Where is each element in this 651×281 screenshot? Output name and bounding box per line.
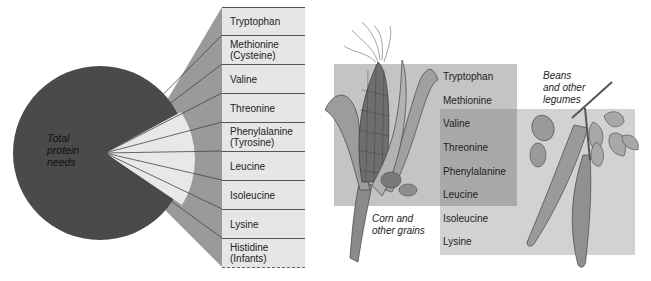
list-item: Leucine bbox=[443, 183, 506, 207]
table-row: Leucine bbox=[222, 152, 305, 181]
table-row: Isoleucine bbox=[222, 181, 305, 210]
essential-amino-acid-table: Tryptophan Methionine (Cysteine) Valine … bbox=[222, 7, 305, 268]
table-row: Threonine bbox=[222, 94, 305, 123]
table-row: Phenylalanine (Tyrosine) bbox=[222, 123, 305, 152]
list-item: Phenylalanine bbox=[443, 159, 506, 183]
list-item: Threonine bbox=[443, 136, 506, 160]
list-item: Isoleucine bbox=[443, 207, 506, 231]
list-item: Tryptophan bbox=[443, 65, 506, 89]
grains-caption: Corn and other grains bbox=[372, 213, 425, 237]
protein-complementation-diagram: Total protein needs Tryptophan Methionin… bbox=[0, 0, 651, 281]
list-item: Lysine bbox=[443, 230, 506, 254]
total-protein-label: Total protein needs bbox=[47, 132, 107, 168]
table-row: Methionine (Cysteine) bbox=[222, 36, 305, 65]
table-row: Histidine (Infants) bbox=[222, 239, 305, 268]
list-item: Methionine bbox=[443, 89, 506, 113]
list-item: Valine bbox=[443, 112, 506, 136]
food-source-amino-acid-list: Tryptophan Methionine Valine Threonine P… bbox=[443, 65, 506, 254]
legumes-caption: Beans and other legumes bbox=[543, 70, 585, 106]
table-row: Tryptophan bbox=[222, 7, 305, 36]
table-row: Lysine bbox=[222, 210, 305, 239]
table-row: Valine bbox=[222, 65, 305, 94]
